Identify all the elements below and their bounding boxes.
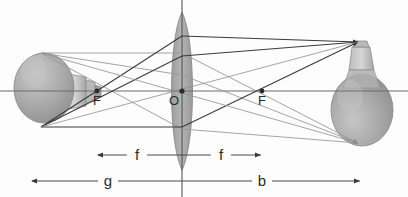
- dimension-focal-right-label: f: [219, 146, 224, 163]
- diagram-canvas: F F O f f g b: [0, 0, 408, 197]
- object-bulb: [14, 53, 101, 123]
- dimension-image-distance: b: [182, 172, 360, 189]
- focal-point-right-label: F: [258, 93, 266, 108]
- object-bulb-highlight: [21, 56, 47, 88]
- focal-point-left-label: F: [93, 93, 101, 108]
- image-bulb-base: [349, 47, 374, 70]
- image-bulb: [331, 41, 393, 146]
- ray-top-center-out: [182, 129, 358, 143]
- ray-top-parallel-out: [182, 53, 358, 143]
- image-bulb-highlight: [337, 80, 363, 112]
- optical-center-label: O: [169, 93, 179, 108]
- optical-center-dot: [179, 88, 184, 93]
- lens-ray-diagram: F F O f f g b: [0, 0, 408, 197]
- dimension-object-distance-label: g: [104, 172, 112, 189]
- ray-base-focal-out: [182, 36, 358, 42]
- dimension-focal-left: f: [98, 146, 182, 163]
- dimension-object-distance: g: [32, 172, 182, 189]
- dimension-focal-right: f: [182, 146, 261, 163]
- dimension-focal-left-label: f: [135, 146, 140, 163]
- dimension-image-distance-label: b: [258, 172, 266, 189]
